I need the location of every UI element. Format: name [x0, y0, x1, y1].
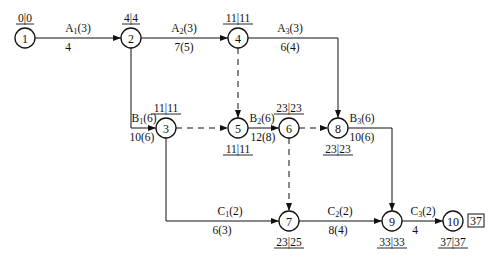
project-duration: 37 [470, 214, 482, 228]
node-times: 37|37 [440, 236, 466, 249]
node-times: 0|0 [18, 12, 32, 25]
activity-label-c1: C1(2) [217, 205, 242, 219]
node-number: 3 [163, 122, 169, 136]
activity-float-label: 10(6) [130, 131, 155, 144]
activity-float-label: 6(3) [212, 224, 231, 237]
node-times: 23|23 [325, 143, 351, 156]
node-number: 5 [235, 122, 241, 136]
activity-label-c3: C3(2) [410, 205, 435, 219]
network-diagram: 10|024|4411|11311|11511|11623|23823|2372… [0, 0, 497, 260]
node-number: 7 [286, 215, 292, 229]
activity-label-a3: A3(3) [277, 22, 303, 36]
activity-label-b3: B3(6) [349, 112, 374, 126]
node-times: 33|33 [379, 236, 405, 249]
activity-float-label: 12(8) [251, 131, 276, 144]
activity-float-label: 6(4) [280, 41, 299, 54]
node-number: 9 [389, 215, 395, 229]
node-times: 23|25 [276, 236, 302, 249]
node-number: 8 [335, 122, 341, 136]
node-times: 23|23 [276, 102, 302, 115]
node-times: 11|11 [226, 143, 251, 156]
node-number: 2 [128, 32, 134, 46]
node-times: 11|11 [226, 12, 251, 25]
activity-label-a1: A1(3) [65, 22, 91, 36]
node-number: 1 [22, 32, 28, 46]
node-times: 4|4 [124, 12, 138, 25]
node-number: 4 [235, 32, 241, 46]
activity-float-label: 4 [65, 41, 71, 53]
activity-float-label: 7(5) [174, 41, 193, 54]
node-number: 6 [286, 122, 292, 136]
node-times: 11|11 [154, 102, 179, 115]
activity-label-b2: B2(6) [249, 112, 274, 126]
activity-label-b1: B1(6) [131, 112, 156, 126]
activity-float-label: 8(4) [328, 224, 347, 237]
activity-label-c2: C2(2) [327, 205, 352, 219]
activity-label-a2: A2(3) [171, 22, 197, 36]
activity-float-label: 4 [412, 224, 418, 236]
node-number: 10 [447, 215, 459, 229]
activity-float-label: 10(6) [350, 131, 375, 144]
